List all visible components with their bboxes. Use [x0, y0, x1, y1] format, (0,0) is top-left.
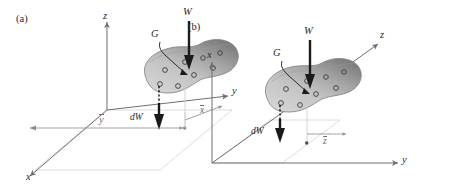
ybar-glyph: y	[99, 115, 104, 126]
ground-plane-b	[212, 120, 340, 163]
panel-a: (a) z y x W G dW y x	[0, 0, 240, 189]
figure-canvas: (a) z y x W G dW y x	[0, 0, 464, 189]
axis-y-a	[107, 96, 228, 110]
panel-b-tag: (b)	[188, 22, 200, 33]
xbar-label-a: x	[200, 106, 204, 116]
axis-label-x-a: x	[26, 172, 31, 183]
xbar-glyph: x	[200, 106, 204, 116]
ybar-label-a: y	[99, 115, 104, 126]
element-weight-label-b: dW	[251, 127, 264, 137]
rigid-body-b	[265, 59, 361, 113]
cg-label-b: G	[273, 48, 281, 59]
weight-label-b: W	[304, 26, 313, 37]
zbar-label-b: z	[323, 137, 327, 147]
cg-label-a: G	[151, 29, 159, 40]
weight-label-a: W	[183, 7, 192, 18]
axis-label-z-b: z	[380, 30, 384, 41]
axis-label-x-b: x	[207, 50, 212, 61]
axis-label-z-a: z	[103, 11, 107, 22]
panel-a-graphics	[0, 0, 240, 189]
panel-b-graphics	[230, 0, 464, 189]
panel-b: (b) x y z W G dW z	[230, 0, 464, 189]
element-weight-label-a: dW	[130, 113, 143, 123]
zbar-glyph: z	[323, 137, 327, 147]
axis-x-a	[30, 110, 107, 176]
panel-a-tag: (a)	[16, 14, 28, 25]
rigid-body-a	[144, 40, 238, 94]
axis-label-y-b: y	[402, 155, 407, 166]
